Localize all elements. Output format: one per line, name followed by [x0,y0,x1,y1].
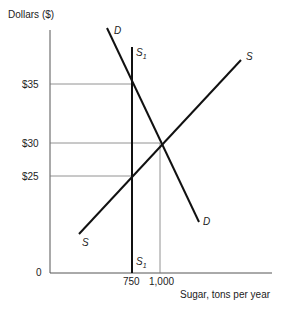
y-axis-label: Dollars ($) [8,9,54,20]
x-tick-750: 750 [123,276,140,287]
demand-label-bottom: D [203,216,210,227]
x-axis-label: Sugar, tons per year [180,289,271,300]
demand-label-top: D [114,25,121,36]
supply-label-top: S [246,51,253,62]
demand-curve [107,28,199,222]
y-tick-35: $35 [22,79,39,90]
quota-label-top: S1 [136,47,147,60]
supply-demand-chart: Dollars ($) Sugar, tons per year $35 $30… [0,0,285,309]
quota-label-bottom: S1 [136,256,147,269]
y-tick-30: $30 [22,138,39,149]
y-tick-0: 0 [36,267,42,278]
x-tick-1000: 1,000 [149,276,174,287]
y-tick-25: $25 [22,171,39,182]
supply-label-bottom: S [82,237,89,248]
